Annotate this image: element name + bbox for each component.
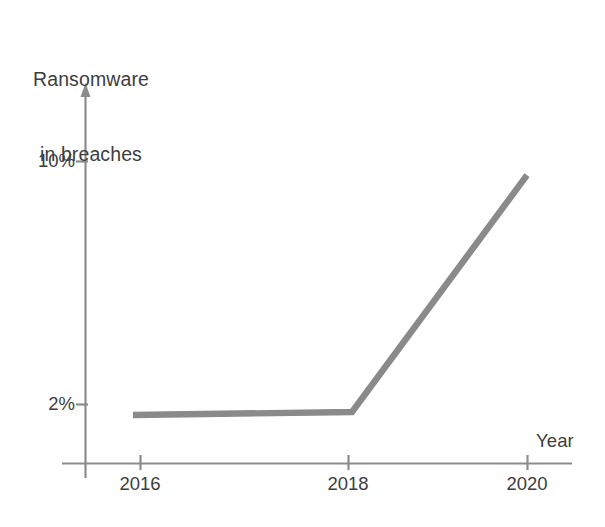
chart-title-line-1: Ransomware <box>31 67 151 92</box>
x-tick-label-2018: 2018 <box>313 473 383 495</box>
x-tick-label-2020: 2020 <box>492 473 562 495</box>
chart-container: Ransomware in breaches Year 10% 2% 2016 … <box>0 0 605 527</box>
chart-title: Ransomware in breaches <box>31 17 151 217</box>
data-series-line <box>133 175 527 415</box>
x-tick-label-2016: 2016 <box>105 473 175 495</box>
x-axis-label: Year <box>536 428 574 453</box>
y-tick-label-2-percent: 2% <box>15 393 75 415</box>
y-tick-label-10-percent: 10% <box>15 150 75 172</box>
